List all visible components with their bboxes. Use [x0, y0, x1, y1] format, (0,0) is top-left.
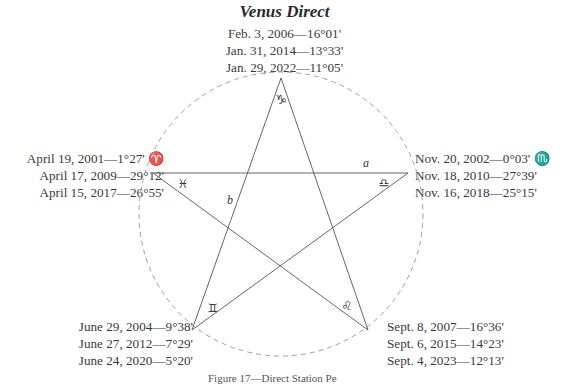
gemini-icon: ♊ — [208, 301, 219, 315]
pentagram-lines — [153, 78, 408, 330]
segment-label-b: b — [227, 193, 233, 207]
pentagram-diagram: ♑ ♓ ♎ ♊ ♌ a b — [0, 0, 569, 385]
libra-icon: ♎ — [379, 176, 390, 190]
leo-icon: ♌ — [342, 299, 353, 313]
orbit-circle — [139, 72, 423, 356]
figure-caption: Figure 17—Direct Station Pe — [208, 372, 337, 384]
segment-label-a: a — [363, 156, 369, 170]
pisces-icon: ♓ — [178, 177, 189, 191]
capricorn-icon: ♑ — [275, 92, 287, 107]
